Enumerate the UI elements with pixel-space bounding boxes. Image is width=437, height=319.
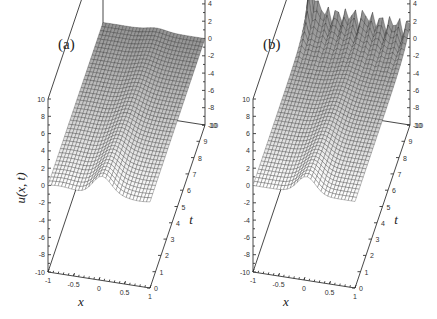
x-tick-label: -0.5 bbox=[272, 281, 284, 288]
t-tick-label: 8 bbox=[403, 155, 407, 162]
tick bbox=[94, 277, 95, 279]
t-tick-label: 7 bbox=[398, 171, 402, 178]
t-tick-label: 2 bbox=[370, 252, 374, 259]
x-tick-label: 0.5 bbox=[120, 289, 130, 296]
tick bbox=[130, 283, 131, 285]
tick bbox=[294, 276, 295, 278]
z-tick-label: -8 bbox=[244, 251, 250, 258]
tick bbox=[68, 273, 69, 275]
z-tick-label: 2 bbox=[41, 165, 45, 172]
z-tick-label: 4 bbox=[246, 147, 250, 154]
t-axis-label: t bbox=[394, 212, 398, 227]
tick bbox=[263, 272, 264, 274]
t-tick-label: 2 bbox=[165, 252, 169, 259]
tick bbox=[340, 284, 341, 286]
tick bbox=[114, 280, 115, 282]
t-tick-label: 3 bbox=[376, 236, 380, 243]
z-axis-label: u(x, t) bbox=[13, 172, 28, 203]
tick bbox=[63, 272, 64, 274]
z-tick-label: -10 bbox=[240, 269, 250, 276]
t-tick-label: 1 bbox=[160, 269, 164, 276]
x-tick-label: 0 bbox=[302, 285, 306, 292]
z-tick-label: -6 bbox=[413, 87, 419, 94]
t-tick-label: 8 bbox=[198, 155, 202, 162]
z-tick-label: -2 bbox=[39, 199, 45, 206]
tick bbox=[253, 270, 254, 272]
tick bbox=[284, 275, 285, 277]
t-tick-label: 10 bbox=[414, 122, 422, 129]
x-axis-label: x bbox=[77, 294, 84, 309]
tick bbox=[125, 282, 126, 284]
z-tick-label: -8 bbox=[413, 104, 419, 111]
tick bbox=[58, 272, 59, 274]
tick bbox=[273, 273, 274, 275]
x-axis-label: x bbox=[282, 294, 289, 309]
tick bbox=[89, 276, 90, 278]
t-tick-label: 5 bbox=[182, 204, 186, 211]
t-tick-label: 1 bbox=[365, 269, 369, 276]
t-tick-label: 5 bbox=[387, 204, 391, 211]
tick bbox=[304, 278, 305, 280]
z-tick-label: 2 bbox=[208, 18, 212, 25]
tick bbox=[145, 285, 146, 287]
panel-b: (b)-10-8-6-4-20246810-10-8-6-4-20246810-… bbox=[240, 0, 423, 309]
t-tick-label: 10 bbox=[209, 122, 217, 129]
t-tick-label: 0 bbox=[154, 285, 158, 292]
z-tick-label: 4 bbox=[41, 147, 45, 154]
x-tick-label: 1 bbox=[148, 293, 152, 300]
tick bbox=[84, 276, 85, 278]
tick bbox=[355, 286, 356, 288]
z-tick-label: 6 bbox=[246, 130, 250, 137]
x-tick-label: -0.5 bbox=[67, 281, 79, 288]
x-tick-label: 0.5 bbox=[325, 289, 335, 296]
z-tick-label: 0 bbox=[208, 35, 212, 42]
tick bbox=[289, 276, 290, 278]
tick bbox=[79, 275, 80, 277]
z-tick-label: -4 bbox=[208, 70, 214, 77]
z-tick-label: -2 bbox=[244, 199, 250, 206]
z-tick-label: 4 bbox=[208, 0, 212, 7]
z-tick-label: -8 bbox=[208, 104, 214, 111]
tick bbox=[74, 274, 75, 276]
z-tick-label: -2 bbox=[413, 52, 419, 59]
tick bbox=[150, 286, 151, 288]
tick bbox=[268, 272, 269, 274]
tick bbox=[330, 282, 331, 284]
tick bbox=[99, 278, 100, 280]
panel-a: (a)-10-8-6-4-20246810-10-8-6-4-20246810-… bbox=[35, 0, 218, 309]
z-tick-label: -10 bbox=[35, 269, 45, 276]
z-tick-label: -6 bbox=[39, 234, 45, 241]
z-tick-label: 8 bbox=[41, 113, 45, 120]
z-tick-label: 4 bbox=[413, 0, 417, 7]
tick bbox=[135, 284, 136, 286]
tick bbox=[314, 280, 315, 282]
tick bbox=[119, 281, 120, 283]
z-tick-label: 2 bbox=[246, 165, 250, 172]
t-tick-label: 7 bbox=[193, 171, 197, 178]
t-tick-label: 6 bbox=[392, 187, 396, 194]
tick bbox=[279, 274, 280, 276]
tick bbox=[345, 284, 346, 286]
x-tick-label: -1 bbox=[250, 277, 256, 284]
x-tick-label: -1 bbox=[45, 277, 51, 284]
z-tick-label: 0 bbox=[413, 35, 417, 42]
tick bbox=[48, 270, 49, 272]
z-tick-label: -4 bbox=[244, 217, 250, 224]
z-tick-label: 6 bbox=[41, 130, 45, 137]
tick bbox=[140, 284, 141, 286]
tick bbox=[335, 283, 336, 285]
tick bbox=[109, 280, 110, 282]
x-tick-label: 1 bbox=[353, 293, 357, 300]
z-tick-label: -8 bbox=[39, 251, 45, 258]
tick bbox=[309, 279, 310, 281]
t-axis-label: t bbox=[189, 212, 193, 227]
z-tick-label: 8 bbox=[246, 113, 250, 120]
tick bbox=[350, 285, 351, 287]
t-tick-label: 9 bbox=[204, 138, 208, 145]
z-tick-label: -4 bbox=[39, 217, 45, 224]
z-tick-label: 0 bbox=[41, 182, 45, 189]
tick bbox=[324, 281, 325, 283]
tick bbox=[319, 280, 320, 282]
z-tick-label: 2 bbox=[413, 18, 417, 25]
tick bbox=[104, 279, 105, 281]
